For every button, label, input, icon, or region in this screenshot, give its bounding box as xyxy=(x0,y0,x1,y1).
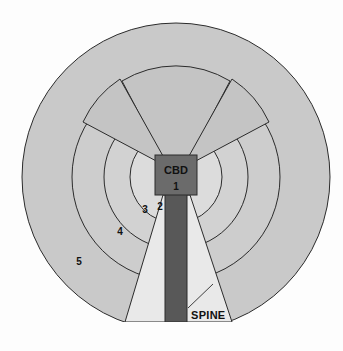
spine-bar xyxy=(165,190,187,322)
spine-corridor-dark xyxy=(165,190,187,322)
zone-label-3: 3 xyxy=(142,204,148,215)
diagram-root: CBD 1 2 3 4 5 SPINE xyxy=(0,0,343,351)
zone-label-5: 5 xyxy=(76,256,82,267)
zone-label-4: 4 xyxy=(117,226,123,237)
urban-zone-diagram: CBD 1 2 3 4 5 SPINE xyxy=(0,0,343,351)
cbd-label: CBD xyxy=(164,164,188,176)
cbd-number-label: 1 xyxy=(173,181,179,192)
spine-label: SPINE xyxy=(191,309,226,321)
zone-label-2: 2 xyxy=(157,201,163,212)
